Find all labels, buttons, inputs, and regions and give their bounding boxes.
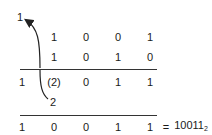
- row2-digit: 0: [83, 51, 89, 63]
- row3-digit: 1: [19, 76, 25, 88]
- result-digit: 0: [83, 121, 89, 133]
- carry-value: 2: [50, 96, 56, 108]
- result-digit: 1: [147, 121, 153, 133]
- row3-digit: 1: [115, 76, 121, 88]
- result-digit: 1: [115, 121, 121, 133]
- row3-digit: 1: [147, 76, 153, 88]
- equals-sign: =: [163, 121, 169, 133]
- row1-digit: 1: [51, 31, 57, 43]
- row1-digit: 1: [147, 31, 153, 43]
- row2-digit: 0: [147, 51, 153, 63]
- row1-digit: 0: [115, 31, 121, 43]
- sum-line-2: [20, 115, 157, 116]
- row2-digit: 1: [115, 51, 121, 63]
- row3-digit: (2): [47, 76, 60, 88]
- result-value: 100112: [174, 119, 208, 135]
- result-digit: 1: [19, 121, 25, 133]
- row3-digit: 0: [83, 76, 89, 88]
- row1-digit: 0: [83, 31, 89, 43]
- result-digit: 0: [51, 121, 57, 133]
- row2-digit: 1: [51, 51, 57, 63]
- carry-top-digit: 1: [17, 11, 23, 23]
- sum-line-1: [20, 69, 157, 70]
- base-subscript: 2: [204, 125, 208, 132]
